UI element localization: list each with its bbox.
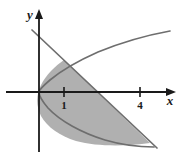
shaded-region [37, 60, 150, 145]
x-tick-label-1: 1 [61, 99, 67, 111]
y-axis-label: y [25, 7, 33, 22]
y-axis-arrow-icon [35, 9, 43, 19]
x-tick-label-4: 4 [137, 99, 143, 111]
figure-canvas: 1 4 x y [0, 0, 186, 160]
math-figure: 1 4 x y [0, 0, 186, 160]
x-axis-label: x [166, 93, 174, 108]
